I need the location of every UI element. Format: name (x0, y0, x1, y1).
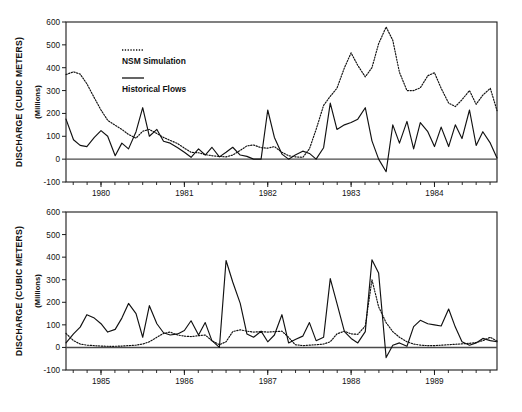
y-axis-title: DISCHARGE (CUBIC METERS) (14, 37, 24, 167)
legend-label-nsm-simulation: NSM Simulation (122, 56, 186, 66)
y-tick-label: -100 (44, 366, 61, 375)
y-tick-label: 600 (46, 18, 60, 27)
y-axis-subtitle: (Millions) (33, 274, 42, 308)
x-tick-label: 1986 (175, 377, 194, 386)
x-tick-label: 1989 (425, 377, 444, 386)
y-axis-subtitle: (Millions) (33, 85, 42, 119)
y-tick-label: 300 (46, 87, 60, 96)
x-tick-label: 1987 (259, 377, 278, 386)
y-tick-label: 100 (46, 321, 60, 330)
y-tick-label: 100 (46, 132, 60, 141)
y-tick-label: 0 (55, 343, 60, 352)
series-line-historical-flows (66, 260, 497, 358)
x-tick-label: 1985 (92, 377, 111, 386)
chart-panel-bottom: -100010020030040050060019851986198719881… (0, 190, 522, 412)
y-tick-label: 500 (46, 231, 60, 240)
figure-root: -100010020030040050060019801981198219831… (0, 0, 522, 412)
plot-frame (66, 212, 497, 370)
y-tick-label: 400 (46, 64, 60, 73)
y-tick-label: 600 (46, 208, 60, 217)
chart-panel-top: -100010020030040050060019801981198219831… (0, 0, 522, 206)
y-tick-label: -100 (44, 178, 61, 187)
y-tick-label: 200 (46, 109, 60, 118)
y-tick-label: 300 (46, 276, 60, 285)
plot-area-bottom: -100010020030040050060019851986198719881… (0, 190, 522, 412)
series-line-nsm-simulation (66, 280, 497, 347)
y-tick-label: 200 (46, 298, 60, 307)
y-tick-label: 500 (46, 41, 60, 50)
y-tick-label: 400 (46, 253, 60, 262)
legend-label-historical-flows: Historical Flows (122, 84, 187, 94)
x-tick-label: 1988 (342, 377, 361, 386)
series-line-historical-flows (66, 103, 497, 172)
y-tick-label: 0 (55, 155, 60, 164)
plot-area-top: -100010020030040050060019801981198219831… (0, 0, 522, 206)
y-axis-title: DISCHARGE (CUBIC METERS) (14, 226, 24, 356)
plot-frame (66, 22, 497, 182)
